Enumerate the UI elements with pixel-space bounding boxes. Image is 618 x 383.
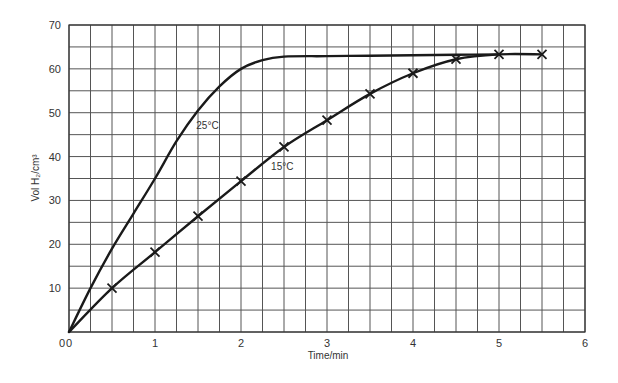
y-tick-label: 50 bbox=[49, 107, 61, 119]
x-axis-ticks: 0123456 bbox=[66, 337, 588, 349]
x-tick-label: 5 bbox=[496, 337, 502, 349]
y-tick-label: 20 bbox=[49, 238, 61, 250]
curve-label: 25°C bbox=[196, 120, 218, 131]
y-axis-ticks: 010203040506070 bbox=[49, 19, 65, 349]
curve-label: 15°C bbox=[271, 161, 293, 172]
x-tick-label: 6 bbox=[582, 337, 588, 349]
y-tick-label: 40 bbox=[49, 151, 61, 163]
y-axis-label: Vol H₂/cm³ bbox=[30, 154, 41, 202]
y-tick-label: 10 bbox=[49, 282, 61, 294]
x-axis-label: Time/min bbox=[308, 350, 349, 361]
x-tick-label: 0 bbox=[66, 337, 72, 349]
y-tick-label: 70 bbox=[49, 19, 61, 31]
x-tick-label: 1 bbox=[152, 337, 158, 349]
y-tick-label: 0 bbox=[59, 337, 65, 349]
x-tick-label: 4 bbox=[410, 337, 416, 349]
grid-lines bbox=[69, 25, 585, 332]
curve-labels: 25°C15°C bbox=[196, 120, 293, 171]
data-series bbox=[69, 50, 547, 332]
x-tick-label: 2 bbox=[238, 337, 244, 349]
y-tick-label: 30 bbox=[49, 194, 61, 206]
y-tick-label: 60 bbox=[49, 63, 61, 75]
x-tick-label: 3 bbox=[324, 337, 330, 349]
chart: 0123456 010203040506070 25°C15°C Time/mi… bbox=[0, 0, 618, 383]
